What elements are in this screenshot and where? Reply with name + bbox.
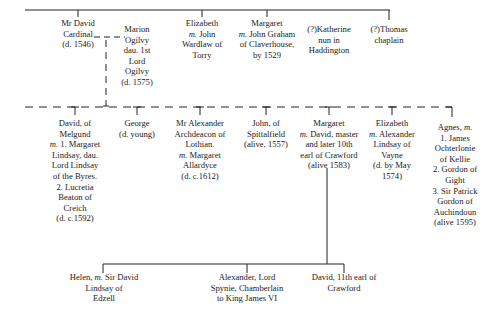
person-text-line: Cardinal: [43, 29, 113, 40]
person-text-line: 1. James: [423, 133, 487, 144]
person-text-line: Elizabeth: [359, 118, 425, 129]
person-text-line: of Kellie: [423, 154, 487, 165]
person-elizabeth-wardlaw: Elizabethm. JohnWardlaw ofTorry: [167, 18, 237, 60]
person-text-line: Margaret: [229, 18, 305, 29]
person-text-line: Haddington: [296, 45, 362, 56]
person-text-line: (?)Thomas: [359, 24, 419, 35]
person-text-line: George: [107, 118, 167, 129]
person-text-line: Lord Lindsay: [39, 160, 111, 171]
person-margaret-crawford: Margaretm. David, masterand later 10thea…: [290, 118, 368, 171]
person-text-line: (d. 1575): [107, 77, 167, 88]
person-margaret-graham: Margaretm. John Grahamof Claverhouse,by …: [229, 18, 305, 60]
person-thomas: (?)Thomaschaplain: [359, 24, 419, 45]
person-text-line: Mr Alexander: [165, 118, 235, 129]
person-text-line: (d. c.1612): [165, 171, 235, 182]
person-george: George(d. young): [107, 118, 167, 139]
person-text-line: Margaret: [290, 118, 368, 129]
person-text-line: Gight: [423, 175, 487, 186]
person-text-line: of Claverhouse,: [229, 39, 305, 50]
person-text-line: nun in: [296, 35, 362, 46]
person-text-line: Lindsay, dau.: [39, 150, 111, 161]
person-text-line: Melgund: [39, 129, 111, 140]
person-text-line: Ogilvy: [107, 35, 167, 46]
person-text-line: m. David, master: [290, 129, 368, 140]
person-text-line: Lindsay of: [59, 283, 149, 294]
person-david-11th-earl: David, 11th earl ofCrawford: [299, 272, 389, 293]
person-john-spittalfield: John, ofSpittalfield(alive, 1557): [234, 118, 298, 150]
person-agnes: Agnes, m.1. JamesOchterlonieof Kellie2. …: [423, 122, 487, 228]
person-text-line: Marion: [107, 24, 167, 35]
person-alexander-archdeacon: Mr AlexanderArchdeacon ofLothian.m. Marg…: [165, 118, 235, 182]
person-text-line: of the Byres.: [39, 171, 111, 182]
person-text-line: Beaton of: [39, 192, 111, 203]
person-text-line: 1574): [359, 171, 425, 182]
person-text-line: Allardyce: [165, 160, 235, 171]
person-text-line: (?)Katherine: [296, 24, 362, 35]
person-alexander-spynie: Alexander, LordSpynie, Chamberlainto Kin…: [202, 272, 292, 304]
person-text-line: Crawford: [299, 283, 389, 294]
person-text-line: Agnes, m.: [423, 122, 487, 133]
person-text-line: (alive 1595): [423, 217, 487, 228]
person-text-line: earl of Crawford: [290, 150, 368, 161]
person-katherine: (?)Katherinenun inHaddington: [296, 24, 362, 56]
person-david-cardinal: Mr DavidCardinal(d. 1546): [43, 18, 113, 50]
person-text-line: David, 11th earl of: [299, 272, 389, 283]
person-text-line: and later 10th: [290, 139, 368, 150]
person-text-line: 3. Sir Patrick: [423, 186, 487, 197]
person-text-line: 2. Gordon of: [423, 164, 487, 175]
person-elizabeth-lindsay: Elizabethm. AlexanderLindsay ofVayne(d. …: [359, 118, 425, 182]
person-text-line: (d. c.1592): [39, 213, 111, 224]
person-text-line: Mr David: [43, 18, 113, 29]
person-text-line: Vayne: [359, 150, 425, 161]
person-text-line: (d. by May: [359, 160, 425, 171]
person-text-line: David, of: [39, 118, 111, 129]
person-text-line: Edzell: [59, 293, 149, 304]
person-text-line: Archdeacon of: [165, 129, 235, 140]
person-text-line: Spynie, Chamberlain: [202, 283, 292, 294]
person-text-line: Lothian.: [165, 139, 235, 150]
person-text-line: 2. Lucretia: [39, 182, 111, 193]
person-text-line: m. John: [167, 29, 237, 40]
person-text-line: m. Margaret: [165, 150, 235, 161]
person-text-line: (alive 1583): [290, 160, 368, 171]
person-text-line: Wardlaw of: [167, 39, 237, 50]
person-text-line: Lindsay of: [359, 139, 425, 150]
person-text-line: Auchindoun: [423, 207, 487, 218]
person-text-line: to King James VI: [202, 293, 292, 304]
person-marion-ogilvy: MarionOgilvydau. 1stLordOgilvy(d. 1575): [107, 24, 167, 88]
person-text-line: m. John Graham: [229, 29, 305, 40]
person-text-line: Lord: [107, 56, 167, 67]
person-text-line: Spittalfield: [234, 129, 298, 140]
person-text-line: by 1529: [229, 50, 305, 61]
person-text-line: Elizabeth: [167, 18, 237, 29]
person-text-line: dau. 1st: [107, 45, 167, 56]
person-text-line: (d. young): [107, 129, 167, 140]
person-text-line: Helen, m. Sir David: [59, 272, 149, 283]
person-text-line: Ogilvy: [107, 66, 167, 77]
person-text-line: Torry: [167, 50, 237, 61]
person-david-melgund: David, ofMelgundm. 1. MargaretLindsay, d…: [39, 118, 111, 224]
person-text-line: (d. 1546): [43, 39, 113, 50]
person-text-line: Alexander, Lord: [202, 272, 292, 283]
person-text-line: Creich: [39, 203, 111, 214]
person-text-line: Ochterlonie: [423, 143, 487, 154]
person-text-line: chaplain: [359, 35, 419, 46]
person-text-line: m. Alexander: [359, 129, 425, 140]
person-helen: Helen, m. Sir DavidLindsay ofEdzell: [59, 272, 149, 304]
person-text-line: m. 1. Margaret: [39, 139, 111, 150]
person-text-line: John, of: [234, 118, 298, 129]
person-text-line: (alive, 1557): [234, 139, 298, 150]
person-text-line: Gordon of: [423, 196, 487, 207]
